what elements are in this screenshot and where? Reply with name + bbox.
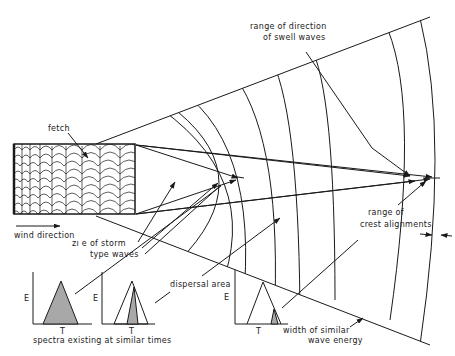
dispersal-to-spectrum: [155, 292, 170, 303]
crest-width-arrow-right: [441, 235, 452, 236]
spectrum-2-e-label: E: [93, 294, 98, 303]
zone-pointer-2: [142, 183, 218, 248]
width-energy-label-1: width of similar: [283, 326, 350, 335]
crest-arcs: [148, 18, 435, 345]
dispersal-area-label: dispersal area: [170, 280, 231, 289]
spectrum-3-t-label: T: [255, 327, 261, 336]
fetch-area: [12, 144, 142, 222]
wind-direction-label: wind direction: [14, 231, 75, 240]
zone-storm-label-2: type waves: [90, 250, 139, 259]
dispersal-line-2: [282, 240, 358, 308]
range-direction-label-1: range of direction: [250, 22, 327, 31]
range-direction-label-2: of swell waves: [263, 33, 325, 42]
spectrum-2-t-label: T: [128, 327, 134, 336]
spectrum-2: E T: [93, 272, 155, 336]
ray-arrows: [136, 145, 440, 214]
range-crest-label-2: crest alignments: [360, 220, 432, 229]
spectra-caption: spectra existing at similar times: [33, 336, 171, 345]
spectrum-1-t-label: T: [59, 327, 65, 336]
spectrum-3-e-label: E: [224, 293, 229, 302]
range-crest-pointer: [398, 181, 426, 205]
range-crest-label-1: range of: [368, 208, 404, 217]
fan-lower-boundary: [96, 216, 430, 345]
dispersal-fan: [96, 17, 435, 345]
spectrum-1-e-label: E: [24, 294, 29, 303]
fetch-label: fetch: [48, 124, 70, 133]
width-energy-label-2: wave energy: [308, 336, 363, 345]
dispersal-pointer: [202, 218, 280, 276]
wave-dispersal-diagram: fetch wind direction zı e of storm type …: [0, 0, 455, 356]
spectrum-1: E T: [24, 272, 92, 336]
crest-width-arrow-left: [420, 234, 432, 235]
spectrum-3: E T: [224, 270, 288, 336]
zone-storm-label-1: zı e of storm: [72, 239, 126, 248]
range-direction-pointer: [306, 52, 372, 148]
zone-pointer-1: [138, 182, 175, 242]
width-energy-pointer: [350, 318, 363, 327]
